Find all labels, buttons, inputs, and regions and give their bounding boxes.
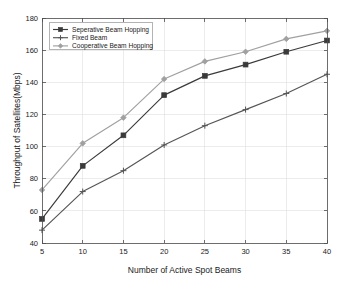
y-tick-label: 40 [30, 239, 38, 248]
x-tick-label: 15 [119, 247, 127, 256]
legend-label: Fixed Beam [72, 34, 108, 41]
x-tick-label: 40 [323, 247, 331, 256]
y-tick-label: 140 [25, 78, 38, 87]
x-tick-label: 10 [79, 247, 87, 256]
y-tick-label: 160 [25, 46, 38, 55]
x-tick-label: 25 [201, 247, 209, 256]
x-axis-title: Number of Active Spot Beams [128, 265, 241, 275]
data-point-marker [121, 133, 126, 138]
x-tick-label: 20 [160, 247, 168, 256]
legend-label: Cooperative Beam Hopping [72, 42, 153, 50]
data-point-marker [202, 73, 207, 78]
y-tick-label: 60 [30, 207, 38, 216]
data-point-marker [284, 49, 289, 54]
x-tick-label: 35 [282, 247, 290, 256]
data-point-marker [243, 62, 248, 67]
y-axis-title: Throughput of Satellites(Mbps) [12, 72, 22, 188]
x-tick-label: 5 [40, 247, 44, 256]
data-point-marker [162, 93, 167, 98]
data-point-marker [59, 28, 63, 32]
x-tick-label: 30 [241, 247, 249, 256]
y-tick-label: 120 [25, 110, 38, 119]
legend-label: Seperative Beam Hopping [72, 26, 149, 34]
y-tick-label: 100 [25, 142, 38, 151]
chart-legend: Seperative Beam HoppingFixed BeamCoopera… [49, 22, 153, 50]
y-tick-label: 80 [30, 174, 38, 183]
data-point-marker [80, 163, 85, 168]
chart-canvas: 510152025303540 406080100120140160180 Nu… [0, 0, 349, 288]
chart-figure: 510152025303540 406080100120140160180 Nu… [0, 0, 349, 288]
y-tick-label: 180 [25, 14, 38, 23]
